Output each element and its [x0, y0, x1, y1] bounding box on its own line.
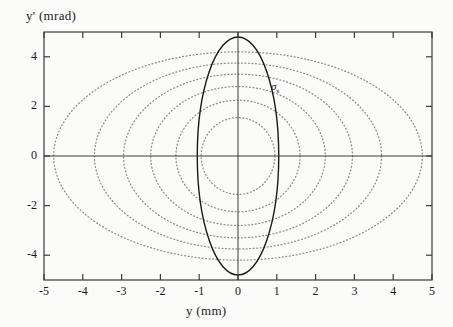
x-tick-label: 4	[381, 284, 405, 299]
y-tick-label: 0	[13, 148, 37, 163]
y-tick-label: -2	[13, 198, 37, 213]
axes-frame	[44, 32, 432, 280]
x-axis-label: y (mm)	[186, 303, 226, 319]
x-tick-label: 3	[342, 284, 366, 299]
y-tick-label: 2	[13, 98, 37, 113]
x-tick-label: 0	[226, 284, 250, 299]
x-tick-label: -2	[148, 284, 172, 299]
x-tick-label: 2	[304, 284, 328, 299]
x-tick-label: -1	[187, 284, 211, 299]
sigma-subscript: s	[276, 87, 279, 95]
x-tick-label: -5	[32, 284, 56, 299]
y-tick-label: -4	[13, 247, 37, 262]
x-tick-label: 1	[265, 284, 289, 299]
y-axis-label: y' (mrad)	[26, 8, 76, 24]
x-tick-label: -3	[110, 284, 134, 299]
x-tick-label: -4	[71, 284, 95, 299]
sigma-annotation: σs	[271, 80, 279, 95]
phase-space-plot: y' (mrad) y (mm) σs -5-4-3-2-1012345 -4-…	[0, 0, 453, 327]
plot-canvas	[0, 0, 453, 327]
y-tick-label: 4	[13, 49, 37, 64]
x-tick-label: 5	[420, 284, 444, 299]
